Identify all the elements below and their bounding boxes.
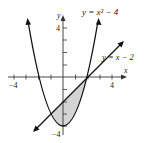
y-tick-label-neg4: −4	[52, 130, 61, 139]
x-tick-label-neg4: −4	[9, 81, 18, 90]
line-label: y = x − 2	[101, 52, 135, 62]
x-tick-label-4: 4	[110, 81, 114, 90]
parabola-left-arrow-icon	[26, 18, 32, 25]
y-axis-label: y	[56, 11, 61, 20]
y-axis-arrow-icon	[61, 15, 66, 21]
parabola-label: y = x² − 4	[81, 7, 119, 17]
parabola-right-arrow-icon	[96, 18, 102, 25]
graph: y = x² − 4 y = x − 2 x y −4 4 4 −4	[0, 0, 149, 143]
x-axis-arrow-icon	[121, 75, 127, 80]
shaded-region	[51, 77, 88, 126]
x-axis-label: x	[123, 66, 128, 75]
y-tick-label-4: 4	[56, 24, 60, 33]
